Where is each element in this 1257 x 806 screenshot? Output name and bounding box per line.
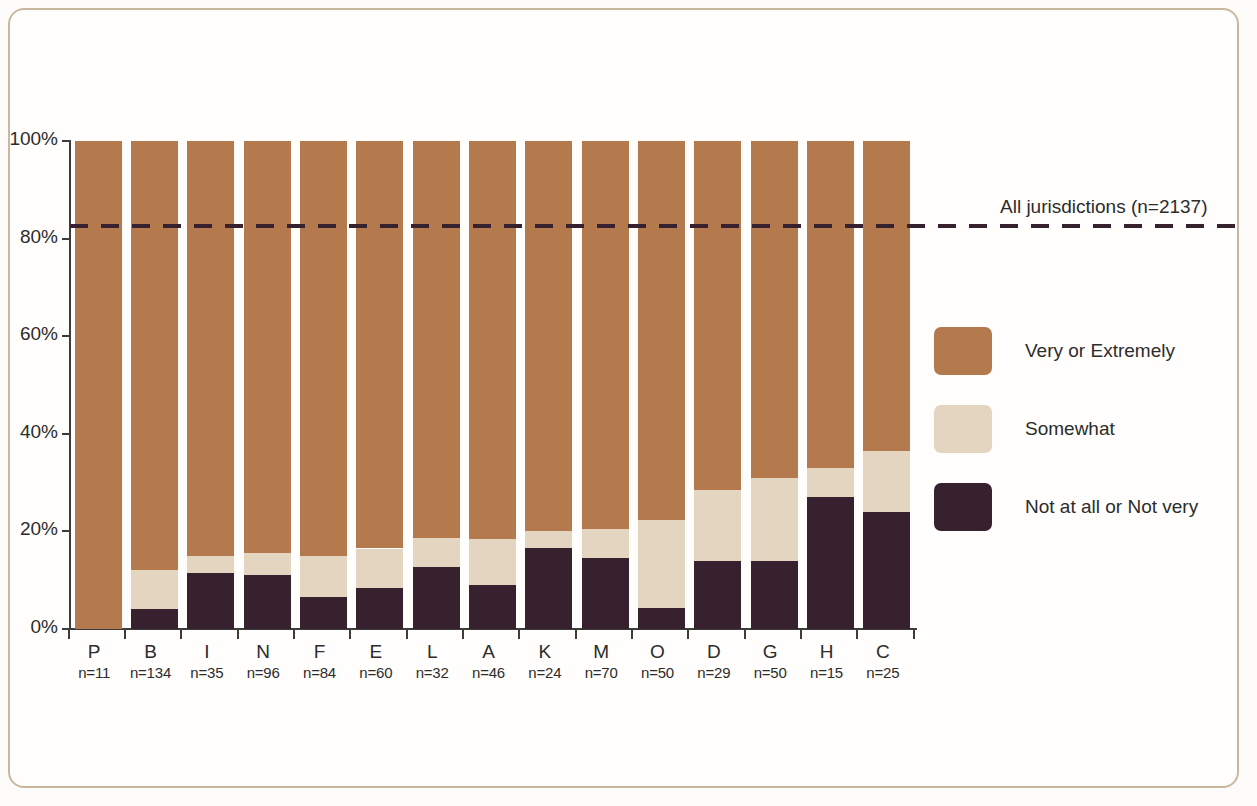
bar-column[interactable] (863, 141, 910, 629)
bar-segment[interactable] (863, 451, 910, 512)
x-axis-category-letter: M (573, 641, 629, 663)
bar-segment[interactable] (356, 588, 403, 629)
x-axis-tick-mark (518, 630, 520, 639)
bar-column[interactable] (187, 141, 234, 629)
bar-segment[interactable] (75, 141, 122, 629)
bar-segment[interactable] (187, 141, 234, 556)
bar-segment[interactable] (751, 141, 798, 478)
x-axis-tick-mark (575, 630, 577, 639)
bar-column[interactable] (131, 141, 178, 629)
bar-column[interactable] (525, 141, 572, 629)
bar-segment[interactable] (356, 141, 403, 548)
bar-segment[interactable] (356, 549, 403, 588)
bar-segment[interactable] (863, 512, 910, 629)
reference-line (70, 224, 1236, 228)
bar-segment[interactable] (638, 520, 685, 608)
bar-segment[interactable] (244, 141, 291, 553)
x-axis-category-label: Pn=11 (66, 641, 122, 682)
x-axis-category-letter: B (122, 641, 178, 663)
bar-column[interactable] (582, 141, 629, 629)
bar-segment[interactable] (187, 556, 234, 573)
bar-segment[interactable] (807, 497, 854, 629)
x-axis-category-letter: N (235, 641, 291, 663)
x-axis-category-label: Hn=15 (798, 641, 854, 682)
bar-column[interactable] (75, 141, 122, 629)
x-axis-tick-mark (800, 630, 802, 639)
x-axis-sample-size: n=70 (573, 663, 629, 682)
bar-column[interactable] (807, 141, 854, 629)
x-axis-category-label: Dn=29 (686, 641, 742, 682)
bar-segment[interactable] (863, 141, 910, 451)
bar-segment[interactable] (131, 570, 178, 609)
x-axis-category-label: Nn=96 (235, 641, 291, 682)
legend-swatch-not-at-all-or-not-very (934, 483, 992, 531)
bar-segment[interactable] (694, 561, 741, 629)
bar-segment[interactable] (638, 608, 685, 629)
legend-label: Very or Extremely (1025, 340, 1175, 362)
bar-segment[interactable] (694, 490, 741, 561)
bar-segment[interactable] (131, 141, 178, 570)
bar-segment[interactable] (751, 478, 798, 561)
bar-column[interactable] (300, 141, 347, 629)
x-axis-category-label: In=35 (179, 641, 235, 682)
x-axis-category-letter: E (348, 641, 404, 663)
stacked-bar-chart: 0%20%40%60%80%100% Pn=11Bn=134In=35Nn=96… (0, 0, 1257, 806)
bar-segment[interactable] (525, 141, 572, 531)
x-axis-tick-mark (68, 630, 70, 639)
bar-segment[interactable] (582, 558, 629, 629)
x-axis-category-label: Bn=134 (122, 641, 178, 682)
legend-swatch-very-or-extremely (934, 327, 992, 375)
x-axis-category-label: Kn=24 (517, 641, 573, 682)
bar-segment[interactable] (751, 561, 798, 629)
x-axis-tick-mark (462, 630, 464, 639)
bar-segment[interactable] (187, 573, 234, 629)
bar-segment[interactable] (582, 141, 629, 529)
bar-segment[interactable] (469, 141, 516, 539)
y-axis-tick-label: 40% (0, 421, 58, 443)
bar-column[interactable] (638, 141, 685, 629)
bar-segment[interactable] (300, 141, 347, 556)
bar-column[interactable] (244, 141, 291, 629)
legend-item[interactable]: Somewhat (934, 390, 1234, 468)
bar-segment[interactable] (694, 141, 741, 490)
bar-segment[interactable] (807, 141, 854, 468)
x-axis-tick-mark (913, 630, 915, 639)
bar-segment[interactable] (244, 553, 291, 575)
x-axis-category-label: An=46 (460, 641, 516, 682)
bar-segment[interactable] (300, 597, 347, 629)
x-axis-sample-size: n=84 (291, 663, 347, 682)
legend-item[interactable]: Not at all or Not very (934, 468, 1234, 546)
bar-segment[interactable] (413, 141, 460, 538)
bar-segment[interactable] (582, 529, 629, 558)
x-axis-sample-size: n=96 (235, 663, 291, 682)
x-axis-sample-size: n=15 (798, 663, 854, 682)
bar-column[interactable] (356, 141, 403, 629)
bar-segment[interactable] (244, 575, 291, 629)
y-axis-tick-label: 60% (0, 323, 58, 345)
bar-column[interactable] (694, 141, 741, 629)
bar-segment[interactable] (525, 548, 572, 629)
bar-segment[interactable] (807, 468, 854, 497)
x-axis-tick-mark (124, 630, 126, 639)
bar-segment[interactable] (300, 556, 347, 597)
x-axis-sample-size: n=32 (404, 663, 460, 682)
bar-column[interactable] (751, 141, 798, 629)
bar-column[interactable] (413, 141, 460, 629)
x-axis-sample-size: n=29 (686, 663, 742, 682)
bar-segment[interactable] (525, 531, 572, 548)
bar-segment[interactable] (469, 585, 516, 629)
bar-segment[interactable] (413, 538, 460, 567)
bar-segment[interactable] (638, 141, 685, 520)
x-axis-sample-size: n=46 (460, 663, 516, 682)
x-axis-category-label: Mn=70 (573, 641, 629, 682)
x-axis-category-letter: D (686, 641, 742, 663)
x-axis-sample-size: n=60 (348, 663, 404, 682)
x-axis-tick-mark (406, 630, 408, 639)
bar-segment[interactable] (469, 539, 516, 585)
bar-segment[interactable] (131, 609, 178, 629)
bar-segment[interactable] (413, 567, 460, 629)
x-axis-sample-size: n=35 (179, 663, 235, 682)
legend-item[interactable]: Very or Extremely (934, 312, 1234, 390)
bar-column[interactable] (469, 141, 516, 629)
x-axis-category-label: On=50 (629, 641, 685, 682)
